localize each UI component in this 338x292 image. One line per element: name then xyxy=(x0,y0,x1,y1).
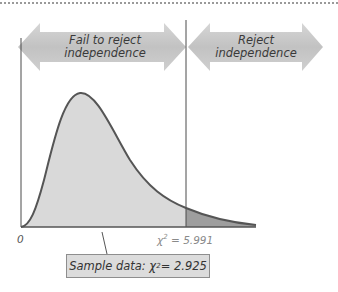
critical-value-text: = 5.991 xyxy=(168,234,214,246)
origin-label: 0 xyxy=(17,233,24,245)
sample-prefix: Sample data: χ xyxy=(69,259,156,273)
sample-pointer-line xyxy=(102,232,107,254)
sample-data-box: Sample data: χ2 = 2.925 xyxy=(66,254,210,278)
reject-line2: independence xyxy=(210,47,302,60)
fail-to-reject-line2: independence xyxy=(50,47,160,60)
fail-to-reject-label: Fail to reject independence xyxy=(50,34,160,60)
reject-label: Reject independence xyxy=(210,34,302,60)
critical-value-label: χ2 = 5.991 xyxy=(157,233,213,246)
sample-value-text: = 2.925 xyxy=(161,259,207,273)
